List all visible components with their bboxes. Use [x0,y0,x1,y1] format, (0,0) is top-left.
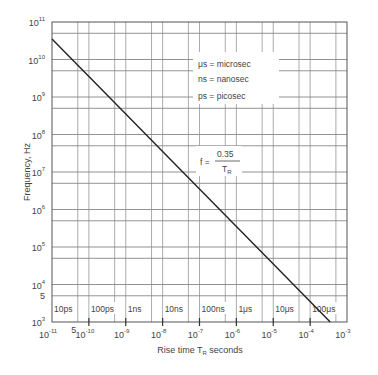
x-tick-label: 10-3 [335,328,351,340]
y-axis-title: Frequency, Hz [22,143,32,201]
y-tick-label: 109 [32,91,46,103]
x-tick-label: 10-9 [114,328,130,340]
rise-time-label: 100μs [312,304,335,314]
x-tick-label: 10-11 [39,328,58,340]
rise-time-label: 10μs [275,304,294,314]
y-tick-label: 106 [32,204,46,216]
frequency-line [52,39,330,322]
x-tick-label: 10-5 [262,328,278,340]
rise-time-label: 1μs [238,304,252,314]
x-tick-label: 10-7 [188,328,204,340]
rise-time-label: 100ns [202,304,225,314]
x-tick-label: 10-8 [151,328,167,340]
y-tick-label-5: 5 [40,291,45,301]
rise-time-label: 1ns [128,304,142,314]
y-tick-label: 1011 [29,16,46,28]
y-tick-label: 1010 [28,54,45,66]
legend-nanosec: ns = nanosec [198,74,250,84]
rise-time-label: 100ps [91,304,114,314]
formula-lhs: f = [200,157,210,167]
y-tick-label: 108 [32,129,46,141]
y-tick-label: 104 [32,279,46,291]
legend-microsec: μs = microsec [198,59,252,69]
y-tick-label: 105 [32,241,46,253]
x-axis-tick-labels: 10-1110-1010-910-810-710-610-510-410-35 [39,325,351,340]
rise-time-label: 10ps [54,304,72,314]
rise-time-label: 10ns [165,304,183,314]
x-axis-title: Rise time TR seconds [157,345,243,356]
legend-picosec: ps = picosec [198,91,246,101]
x-tick-label: 10-4 [298,328,314,340]
frequency-vs-risetime-chart: 103104105106107108109101010115 10-1110-1… [0,0,378,375]
x-tick-label: 10-6 [225,328,241,340]
rise-time-labels: 10ps100ps1ns10ns100ns1μs10μs100μs [53,302,339,314]
x-tick-label-5: 5 [71,325,76,335]
y-tick-label: 103 [32,316,46,328]
x-tick-label: 10-10 [76,328,95,340]
y-tick-label: 107 [32,166,46,178]
formula-numerator: 0.35 [217,149,234,159]
